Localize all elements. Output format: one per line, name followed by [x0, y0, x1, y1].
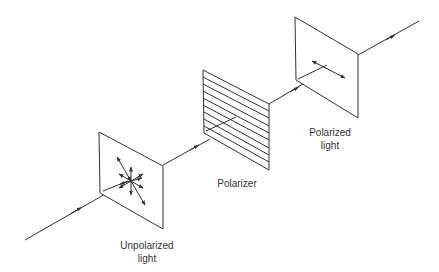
label-line: Unpolarized	[120, 239, 173, 252]
polarizer-label: Polarizer	[217, 177, 256, 190]
beam-polarized	[269, 84, 303, 104]
beam-middle	[163, 139, 210, 165]
label-line: Polarized	[309, 126, 351, 139]
label-line: light	[309, 139, 351, 152]
polarized-plane	[295, 17, 358, 118]
beam-outgoing	[358, 21, 419, 55]
label-line: light	[120, 252, 173, 265]
polarizer-plane	[203, 70, 269, 170]
diagram-canvas	[0, 0, 439, 272]
unpolarized-light-label: Unpolarized light	[120, 239, 173, 265]
polarization-diagram: Unpolarized light Polarizer Polarized li…	[0, 0, 439, 272]
polarized-light-label: Polarized light	[309, 126, 351, 152]
